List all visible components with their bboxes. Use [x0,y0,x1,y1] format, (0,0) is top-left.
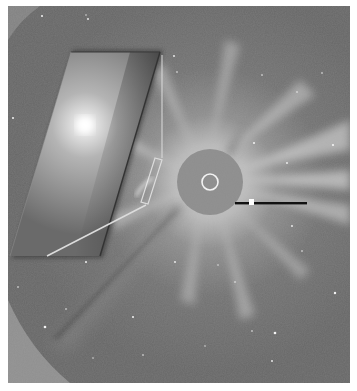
occulter-pylon [235,202,307,204]
occulter-noise [177,149,243,215]
coronagraph-image [8,6,350,383]
pylon-marker [249,199,254,205]
coronagraph-scene [8,6,350,383]
galaxy-core [76,116,94,134]
